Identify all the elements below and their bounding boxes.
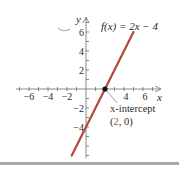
swoosh-mark	[58, 28, 70, 31]
y-axis-label: y	[75, 13, 81, 25]
y-tick-label: 4	[79, 46, 84, 57]
x-axis-label: x	[156, 91, 162, 103]
y-tick-label: −4	[73, 122, 84, 133]
intercept-leader	[107, 91, 117, 103]
intercept-coords: (2, 0)	[110, 116, 133, 128]
x-intercept-point	[102, 86, 107, 91]
x-tick-label: −4	[43, 91, 54, 102]
x-tick-label: 4	[124, 91, 129, 102]
y-tick-label: 6	[79, 27, 84, 38]
bottom-rule	[0, 162, 179, 165]
y-tick-label: −2	[73, 103, 84, 114]
x-tick-label: −2	[62, 91, 73, 102]
y-axis	[83, 17, 89, 158]
x-axis	[16, 86, 161, 92]
x-tick-label: −6	[24, 91, 35, 102]
x-tick-label: 6	[143, 91, 148, 102]
y-tick-label: 2	[79, 65, 84, 76]
line-chart: −6 −4 −2 4 6 6 4 2 −2 −4 x y f(x) = 2x −…	[0, 0, 179, 175]
intercept-label: x-intercept	[110, 103, 156, 114]
function-label: f(x) = 2x − 4	[101, 20, 158, 33]
